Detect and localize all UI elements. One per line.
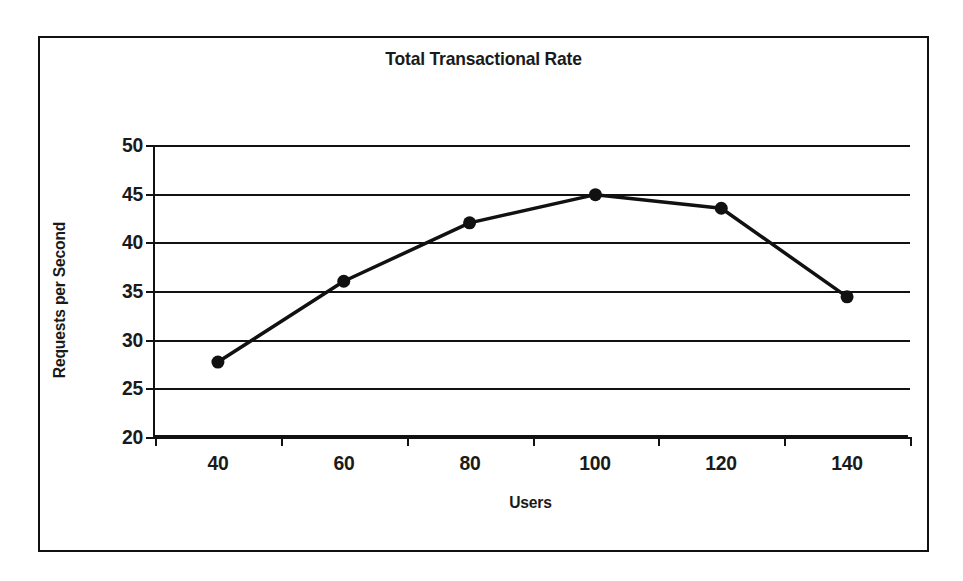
data-point-marker xyxy=(715,202,728,215)
data-point-marker xyxy=(589,188,602,201)
y-axis-tick xyxy=(146,194,155,196)
chart-figure: Total Transactional Rate Requests per Se… xyxy=(0,0,963,581)
x-axis-tick-label: 120 xyxy=(680,451,763,475)
y-axis-tick xyxy=(146,388,155,390)
y-axis-tick-label: 30 xyxy=(91,328,143,352)
x-axis-tick xyxy=(533,437,535,446)
x-axis-tick-label: 80 xyxy=(428,451,511,475)
x-axis-tick xyxy=(407,437,409,446)
x-axis-tick-label: 100 xyxy=(554,451,637,475)
x-axis-tick xyxy=(658,437,660,446)
chart-title: Total Transactional Rate xyxy=(74,48,894,70)
y-axis-tick-label: 35 xyxy=(91,279,143,303)
data-point-marker xyxy=(463,216,476,229)
y-axis-tick xyxy=(146,291,155,293)
x-axis-tick-label: 40 xyxy=(177,451,260,475)
x-axis-tick-label: 60 xyxy=(302,451,385,475)
x-axis-tick xyxy=(910,437,912,446)
x-axis-tick xyxy=(155,437,157,446)
y-axis-tick-label: 40 xyxy=(91,230,143,254)
x-axis-tick xyxy=(281,437,283,446)
x-axis-tick xyxy=(784,437,786,446)
plot-area: 20253035404550 406080100120140 xyxy=(153,145,908,437)
data-point-marker xyxy=(841,290,854,303)
x-axis-title: Users xyxy=(183,493,878,513)
y-axis-tick xyxy=(146,340,155,342)
x-axis-tick-label: 140 xyxy=(806,451,889,475)
y-axis-tick-label: 45 xyxy=(91,182,143,206)
data-point-marker xyxy=(211,356,224,369)
y-axis-tick-label: 25 xyxy=(91,376,143,400)
y-axis-tick xyxy=(146,242,155,244)
y-axis-tick-label: 50 xyxy=(91,133,143,157)
data-series-line xyxy=(155,145,910,437)
y-axis-tick xyxy=(146,437,155,439)
y-axis-tick xyxy=(146,145,155,147)
y-axis-title: Requests per Second xyxy=(50,190,70,411)
y-axis-tick-label: 20 xyxy=(91,425,143,449)
data-point-marker xyxy=(337,275,350,288)
